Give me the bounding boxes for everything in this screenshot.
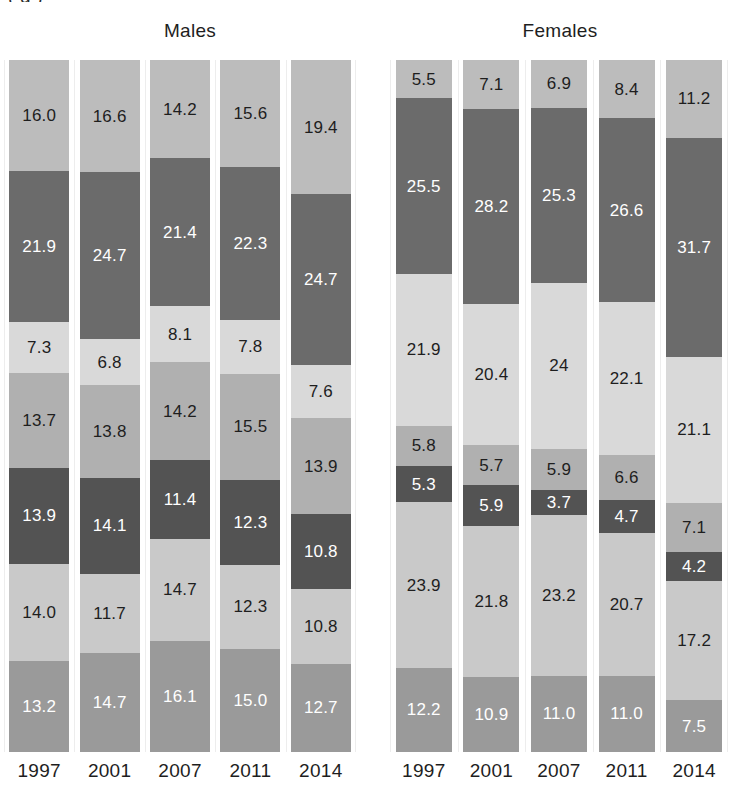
bar-segment[interactable]: 5.9 bbox=[463, 485, 519, 526]
bar-segment[interactable]: 19.4 bbox=[291, 60, 351, 194]
segment-value-label: 7.5 bbox=[682, 718, 706, 735]
segment-value-label: 14.1 bbox=[93, 517, 127, 534]
bar-segment[interactable]: 11.4 bbox=[150, 460, 210, 539]
stacked-bar[interactable]: 7.128.220.45.75.921.810.9 bbox=[463, 60, 519, 752]
bar-segment[interactable]: 8.4 bbox=[599, 60, 655, 118]
x-axis-tick-label: 2011 bbox=[593, 760, 661, 790]
bar-segment[interactable]: 14.2 bbox=[150, 60, 210, 158]
x-axis-tick-label: 2011 bbox=[215, 760, 285, 790]
stacked-bar[interactable]: 16.021.97.313.713.914.013.2 bbox=[9, 60, 69, 752]
segment-value-label: 16.6 bbox=[93, 108, 127, 125]
x-axis-tick-label: 2014 bbox=[286, 760, 356, 790]
bar-segment[interactable]: 21.8 bbox=[463, 526, 519, 677]
segment-value-label: 19.4 bbox=[304, 119, 338, 136]
bar-segment[interactable]: 14.7 bbox=[150, 539, 210, 641]
x-axis-tick-label: 2014 bbox=[660, 760, 728, 790]
bar-segment[interactable]: 5.8 bbox=[396, 426, 452, 466]
bar-segment[interactable]: 25.3 bbox=[531, 108, 587, 283]
bar-segment[interactable]: 13.9 bbox=[9, 468, 69, 564]
stacked-bar[interactable]: 11.231.721.17.14.217.27.5 bbox=[666, 60, 722, 752]
bar-segment[interactable]: 14.0 bbox=[9, 564, 69, 661]
bar-segment[interactable]: 13.9 bbox=[291, 418, 351, 514]
bar-segment[interactable]: 6.9 bbox=[531, 60, 587, 108]
bar-segment[interactable]: 23.9 bbox=[396, 502, 452, 667]
bar-segment[interactable]: 11.2 bbox=[666, 60, 722, 138]
bar-segment[interactable]: 14.1 bbox=[80, 478, 140, 573]
segment-value-label: 12.3 bbox=[233, 598, 267, 615]
bar-segment[interactable]: 5.3 bbox=[396, 466, 452, 503]
bar-segment[interactable]: 7.1 bbox=[666, 503, 722, 552]
bar-segment[interactable]: 6.6 bbox=[599, 455, 655, 501]
stacked-bar[interactable]: 5.525.521.95.85.323.912.2 bbox=[396, 60, 452, 752]
bar-segment[interactable]: 24.7 bbox=[80, 172, 140, 339]
segment-value-label: 21.8 bbox=[474, 593, 508, 610]
segment-value-label: 4.7 bbox=[614, 508, 638, 525]
stacked-bar[interactable]: 19.424.77.613.910.810.812.7 bbox=[291, 60, 351, 752]
bar-segment[interactable]: 7.6 bbox=[291, 365, 351, 418]
bar-segment[interactable]: 23.2 bbox=[531, 515, 587, 676]
bar-slot: 5.525.521.95.85.323.912.2 bbox=[390, 60, 458, 752]
bar-segment[interactable]: 12.3 bbox=[220, 480, 280, 564]
bar-segment[interactable]: 20.7 bbox=[599, 533, 655, 676]
bar-slot: 15.622.37.815.512.312.315.0 bbox=[215, 60, 285, 752]
bar-segment[interactable]: 21.9 bbox=[9, 171, 69, 323]
bar-segment[interactable]: 16.0 bbox=[9, 60, 69, 171]
bar-segment[interactable]: 24.7 bbox=[291, 194, 351, 365]
bar-segment[interactable]: 21.4 bbox=[150, 158, 210, 306]
bar-segment[interactable]: 24 bbox=[531, 283, 587, 449]
segment-value-label: 4.2 bbox=[682, 558, 706, 575]
bar-segment[interactable]: 5.7 bbox=[463, 445, 519, 484]
bar-segment[interactable]: 17.2 bbox=[666, 581, 722, 700]
segment-value-label: 26.6 bbox=[610, 202, 644, 219]
bar-segment[interactable]: 15.6 bbox=[220, 60, 280, 167]
bar-segment[interactable]: 26.6 bbox=[599, 118, 655, 302]
stacked-bar[interactable]: 16.624.76.813.814.111.714.7 bbox=[80, 60, 140, 752]
bar-segment[interactable]: 5.5 bbox=[396, 60, 452, 98]
bar-segment[interactable]: 13.2 bbox=[9, 661, 69, 752]
bar-segment[interactable]: 7.8 bbox=[220, 320, 280, 374]
bar-segment[interactable]: 8.1 bbox=[150, 306, 210, 362]
segment-value-label: 25.3 bbox=[542, 187, 576, 204]
bar-segment[interactable]: 12.2 bbox=[396, 668, 452, 752]
bar-segment[interactable]: 28.2 bbox=[463, 109, 519, 304]
bar-segment[interactable]: 10.9 bbox=[463, 677, 519, 752]
stacked-bar[interactable]: 8.426.622.16.64.720.711.0 bbox=[599, 60, 655, 752]
bar-segment[interactable]: 3.7 bbox=[531, 490, 587, 516]
bar-segment[interactable]: 16.6 bbox=[80, 60, 140, 172]
bar-segment[interactable]: 13.8 bbox=[80, 385, 140, 478]
bar-segment[interactable]: 22.3 bbox=[220, 167, 280, 320]
bar-segment[interactable]: 11.0 bbox=[531, 676, 587, 752]
stacked-bar[interactable]: 15.622.37.815.512.312.315.0 bbox=[220, 60, 280, 752]
bar-segment[interactable]: 11.7 bbox=[80, 574, 140, 653]
segment-value-label: 7.6 bbox=[309, 383, 333, 400]
bar-segment[interactable]: 10.8 bbox=[291, 589, 351, 664]
bar-segment[interactable]: 21.1 bbox=[666, 357, 722, 503]
bar-segment[interactable]: 5.9 bbox=[531, 449, 587, 490]
segment-value-label: 6.9 bbox=[547, 75, 571, 92]
bar-segment[interactable]: 4.7 bbox=[599, 500, 655, 532]
segment-value-label: 6.6 bbox=[614, 469, 638, 486]
bar-segment[interactable]: 14.7 bbox=[80, 653, 140, 752]
bar-segment[interactable]: 7.5 bbox=[666, 700, 722, 752]
bar-segment[interactable]: 15.0 bbox=[220, 649, 280, 752]
bar-segment[interactable]: 12.3 bbox=[220, 565, 280, 649]
bar-segment[interactable]: 22.1 bbox=[599, 302, 655, 455]
bar-segment[interactable]: 16.1 bbox=[150, 641, 210, 752]
bar-segment[interactable]: 31.7 bbox=[666, 138, 722, 357]
bar-segment[interactable]: 15.5 bbox=[220, 374, 280, 480]
bar-segment[interactable]: 11.0 bbox=[599, 676, 655, 752]
bar-segment[interactable]: 14.2 bbox=[150, 362, 210, 460]
bar-segment[interactable]: 7.1 bbox=[463, 60, 519, 109]
bar-segment[interactable]: 13.7 bbox=[9, 373, 69, 468]
bar-segment[interactable]: 4.2 bbox=[666, 552, 722, 581]
bar-segment[interactable]: 12.7 bbox=[291, 664, 351, 752]
bar-segment[interactable]: 25.5 bbox=[396, 98, 452, 274]
bar-segment[interactable]: 21.9 bbox=[396, 274, 452, 425]
bar-segment[interactable]: 20.4 bbox=[463, 304, 519, 445]
bar-segment[interactable]: 6.8 bbox=[80, 339, 140, 385]
bar-segment[interactable]: 7.3 bbox=[9, 322, 69, 373]
stacked-bar[interactable]: 14.221.48.114.211.414.716.1 bbox=[150, 60, 210, 752]
bar-segment[interactable]: 10.8 bbox=[291, 514, 351, 589]
segment-value-label: 25.5 bbox=[407, 178, 441, 195]
stacked-bar[interactable]: 6.925.3245.93.723.211.0 bbox=[531, 60, 587, 752]
